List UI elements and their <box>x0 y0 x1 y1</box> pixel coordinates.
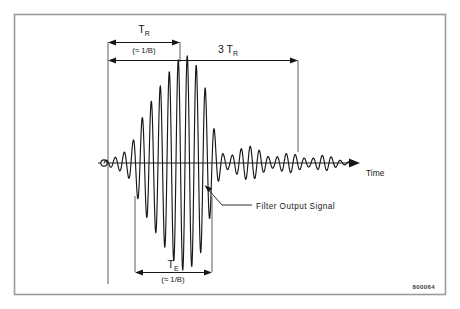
figure-id-label: 800064 <box>413 283 436 290</box>
te-note: (≈ 1/B) <box>161 275 185 284</box>
time-axis-label: Time <box>366 168 385 178</box>
figure-canvas: TR (≈ 1/B) 3 TR Time <box>0 0 460 309</box>
tr-note: (≈ 1/B) <box>132 46 156 55</box>
technical-figure: TR (≈ 1/B) 3 TR Time <box>0 0 460 309</box>
filter-output-label: Filter Output Signal <box>256 202 335 211</box>
